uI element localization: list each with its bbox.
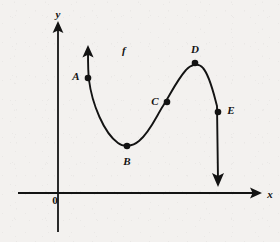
- point-label-A: A: [72, 71, 80, 82]
- point-marker-B: [124, 143, 131, 150]
- point-label-B: B: [123, 156, 131, 167]
- origin-label: 0: [52, 195, 58, 206]
- point-marker-E: [215, 109, 222, 116]
- point-label-D: D: [191, 44, 199, 55]
- point-label-C: C: [151, 96, 159, 107]
- y-axis-label: y: [55, 9, 60, 20]
- point-marker-A: [85, 75, 92, 82]
- function-curve-f: [82, 45, 224, 187]
- point-label-E: E: [227, 105, 235, 116]
- coordinate-plane-svg: [0, 0, 280, 242]
- x-axis-label: x: [267, 189, 273, 200]
- point-marker-D: [192, 60, 199, 67]
- point-marker-C: [164, 99, 171, 106]
- curve-path: [88, 52, 218, 180]
- graph-figure: y x 0 f A B C D E: [0, 0, 280, 242]
- function-label-f: f: [122, 45, 126, 56]
